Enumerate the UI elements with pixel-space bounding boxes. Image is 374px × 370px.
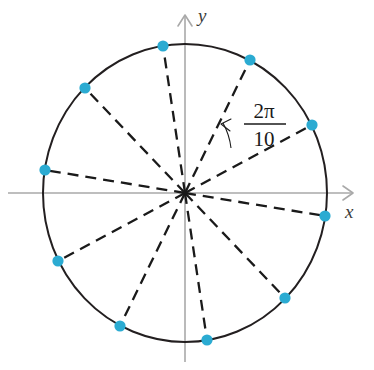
spoke-4 <box>185 193 285 298</box>
spoke-2 <box>185 125 312 193</box>
angle-label-fraction: 2π 10 <box>244 99 286 151</box>
angle-annotation-group <box>221 119 231 148</box>
unit-circle-diagram: 2π 10 x y <box>0 0 374 370</box>
root-dot-8 <box>39 164 50 175</box>
figure-root: 2π 10 x y <box>0 0 374 370</box>
spoke-5 <box>185 193 207 340</box>
root-dot-4 <box>279 292 290 303</box>
root-dot-6 <box>114 320 125 331</box>
spoke-3 <box>185 193 325 216</box>
spoke-8 <box>45 170 185 193</box>
root-dot-3 <box>319 210 330 221</box>
spoke-9 <box>85 88 185 193</box>
root-dot-0 <box>157 40 168 51</box>
root-dot-2 <box>306 119 317 130</box>
root-dot-7 <box>52 255 63 266</box>
spoke-0 <box>163 46 185 193</box>
fraction-numerator: 2π <box>253 99 275 123</box>
root-dot-1 <box>244 54 255 65</box>
spoke-6 <box>120 193 185 326</box>
y-axis-label: y <box>196 5 207 26</box>
spoke-7 <box>58 193 185 261</box>
fraction-denominator: 10 <box>254 127 275 151</box>
x-axis-label: x <box>344 201 354 222</box>
root-dot-5 <box>201 334 212 345</box>
root-dot-9 <box>79 82 90 93</box>
spoke-1 <box>185 60 250 193</box>
